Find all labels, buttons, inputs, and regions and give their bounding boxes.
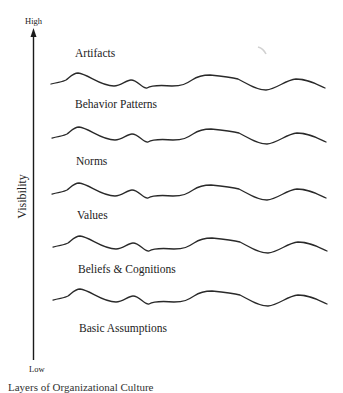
arrow-up-icon	[31, 28, 37, 37]
axis-low-label: Low	[29, 365, 45, 374]
layer-boundary-4	[53, 236, 327, 253]
layer-label-behavior-patterns: Behavior Patterns	[75, 98, 157, 110]
scan-smudge	[258, 47, 266, 54]
layer-label-beliefs-cognitions: Beliefs & Cognitions	[78, 263, 176, 275]
layer-label-norms: Norms	[76, 155, 107, 167]
layer-boundary-2	[52, 127, 326, 144]
axis-title-visibility: Visibility	[15, 171, 30, 223]
figure-caption: Layers of Organizational Culture	[8, 381, 154, 393]
axis-high-label: High	[25, 17, 42, 26]
layer-boundary-3	[52, 183, 326, 200]
layer-label-basic-assumptions: Basic Assumptions	[79, 322, 167, 334]
layer-label-artifacts: Artifacts	[75, 47, 115, 59]
layer-label-values: Values	[77, 209, 108, 221]
layer-boundary-1	[51, 73, 325, 90]
layer-boundary-5	[53, 289, 327, 306]
